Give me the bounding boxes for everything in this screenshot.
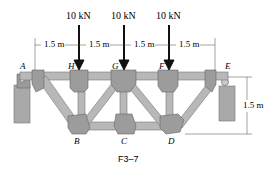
joint-label-D: D: [168, 136, 175, 146]
load-label-F: 10 kN: [156, 10, 181, 21]
load-label-G: 10 kN: [111, 10, 136, 21]
pin-support-A: [14, 74, 30, 123]
roller-support-E: [219, 79, 235, 122]
joint-label-G: G: [112, 61, 119, 71]
truss-diagram: [0, 0, 269, 169]
spacing-label-2: 1.5 m: [89, 39, 110, 49]
joint-label-C: C: [121, 136, 127, 146]
spacing-label-3: 1.5 m: [134, 39, 155, 49]
joint-label-H: H: [68, 61, 75, 71]
load-label-H: 10 kN: [66, 10, 91, 21]
height-label: 1.5 m: [243, 100, 264, 110]
joint-label-F: F: [159, 61, 165, 71]
spacing-label-4: 1.5 m: [179, 39, 200, 49]
spacing-label-1: 1.5 m: [44, 39, 65, 49]
figure-caption: F3–7: [118, 154, 139, 164]
joint-label-B: B: [74, 136, 80, 146]
joint-label-E: E: [225, 61, 231, 71]
joint-label-A: A: [20, 61, 26, 71]
